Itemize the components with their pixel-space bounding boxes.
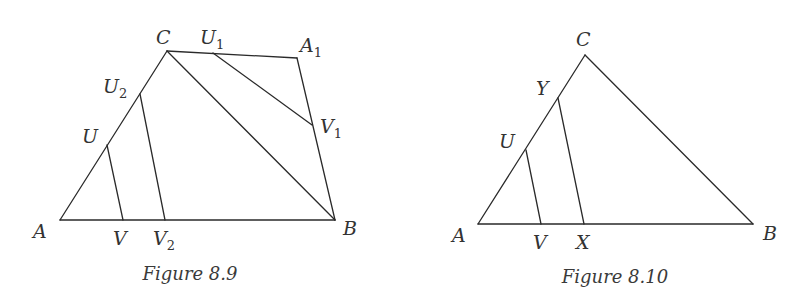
figure-8-10-segments	[478, 55, 753, 224]
geometry-figures: ABCA1U1V1U2V2UV Figure 8.9 ABCYUVX Figur…	[0, 0, 805, 307]
figure-8-10-caption: Figure 8.10	[561, 266, 668, 287]
point-label-a1: A1	[298, 34, 322, 60]
point-label-u2: U2	[103, 75, 127, 101]
point-label-a: A	[31, 220, 47, 242]
segment-u-v	[526, 150, 541, 224]
figure-8-9-segments	[60, 51, 335, 220]
figure-8-9-caption: Figure 8.9	[142, 263, 238, 284]
segment-c-b	[585, 55, 753, 224]
segment-c-b	[167, 51, 335, 220]
point-label-b: B	[762, 222, 777, 244]
point-label-u1: U1	[200, 26, 224, 52]
point-label-x: X	[574, 231, 591, 253]
segment-u-v	[107, 145, 123, 220]
figure-8-10: ABCYUVX Figure 8.10	[450, 28, 777, 287]
segment-c-a1	[167, 51, 297, 58]
point-label-v: V	[533, 231, 549, 253]
figure-8-9-point-labels: ABCA1U1V1U2V2UV	[31, 26, 357, 253]
point-label-v: V	[113, 227, 129, 249]
segment-u2-v2	[140, 94, 165, 220]
point-label-v2: V2	[153, 227, 175, 253]
point-label-v1: V1	[320, 115, 342, 141]
segment-u1-v1	[213, 53, 312, 125]
point-label-y: Y	[536, 77, 551, 99]
point-label-b: B	[342, 217, 357, 239]
segment-y-x	[558, 98, 584, 224]
segment-a1-b	[297, 58, 335, 220]
point-label-c: C	[156, 26, 171, 48]
point-label-c: C	[576, 28, 591, 50]
figure-8-9: ABCA1U1V1U2V2UV Figure 8.9	[31, 26, 357, 284]
segment-a-c	[478, 55, 585, 224]
point-label-u: U	[82, 125, 99, 147]
point-label-u: U	[499, 130, 516, 152]
figure-8-10-point-labels: ABCYUVX	[450, 28, 777, 253]
point-label-a: A	[450, 224, 466, 246]
